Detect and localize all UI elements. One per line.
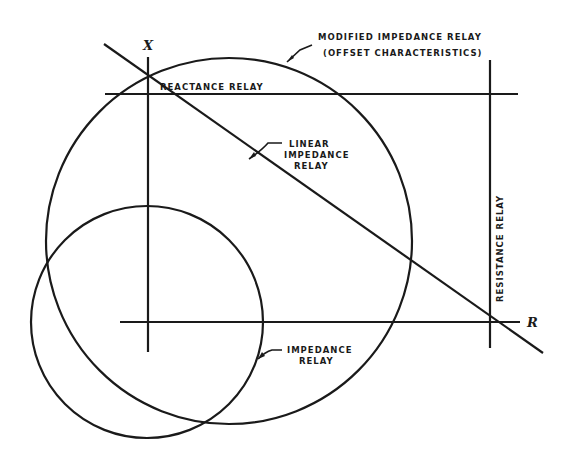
linear-impedance-label-2: IMPEDANCE bbox=[284, 150, 349, 160]
impedance-relay-label-1: IMPEDANCE bbox=[287, 345, 352, 355]
x-axis-label: X bbox=[142, 38, 154, 53]
r-axis-label: R bbox=[526, 315, 538, 330]
reactance-relay-label: REACTANCE RELAY bbox=[160, 82, 264, 92]
modified-impedance-label-1: MODIFIED IMPEDANCE RELAY bbox=[318, 32, 482, 42]
linear-impedance-label-1: LINEAR bbox=[289, 139, 330, 149]
resistance-relay-label: RESISTANCE RELAY bbox=[495, 195, 505, 302]
linear-arrow-icon bbox=[249, 152, 256, 159]
modified-impedance-label-2: (OFFSET CHARACTERISTICS) bbox=[323, 48, 483, 58]
impedance-relay-label-2: RELAY bbox=[299, 356, 334, 366]
linear-impedance-label-3: RELAY bbox=[294, 161, 329, 171]
rx-diagram: X R MODIFIED IMPEDANCE RELAY (OFFSET CHA… bbox=[0, 0, 569, 461]
